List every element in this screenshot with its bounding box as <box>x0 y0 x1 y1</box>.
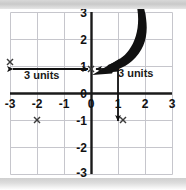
y-tick--3: -3 <box>76 166 87 178</box>
y-tick-1: 1 <box>80 60 87 74</box>
y-tick-3: 3 <box>80 9 87 20</box>
y-tick-0: 0 <box>80 87 87 101</box>
x-tick-0: 0 <box>88 97 95 111</box>
left-units-label: 3 units <box>24 69 59 81</box>
axes <box>10 12 172 174</box>
y-tick--2: -2 <box>76 141 87 155</box>
coordinate-plane: -3 -2 -1 0 1 2 3 3 2 1 0 -1 -2 -3 <box>0 9 186 178</box>
figure-root: -3 -2 -1 0 1 2 3 3 2 1 0 -1 -2 -3 <box>0 0 186 190</box>
y-tick--1: -1 <box>76 114 87 128</box>
top-page-band <box>0 0 186 9</box>
x-tick--2: -2 <box>32 97 43 111</box>
x-axis-tick-labels: -3 -2 -1 0 1 2 3 <box>5 97 176 111</box>
right-units-label: 3 units <box>118 67 153 79</box>
x-tick--3: -3 <box>5 97 16 111</box>
x-tick--1: -1 <box>59 97 70 111</box>
x-tick-3: 3 <box>169 97 176 111</box>
y-tick-2: 2 <box>80 33 87 47</box>
pointer-arrow-icon <box>92 9 147 75</box>
bottom-page-band <box>0 178 186 190</box>
x-tick-2: 2 <box>142 97 149 111</box>
